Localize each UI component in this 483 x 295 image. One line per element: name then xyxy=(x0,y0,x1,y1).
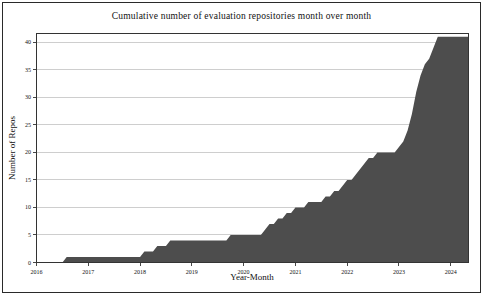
y-tick-label-30: 30 xyxy=(25,94,31,100)
y-tick-label-20: 20 xyxy=(25,149,31,155)
y-tick-label-25: 25 xyxy=(25,122,31,128)
chart-title: Cumulative number of evaluation reposito… xyxy=(0,11,483,21)
y-tick-label-0: 0 xyxy=(28,260,31,266)
x-axis-label: Year-Month xyxy=(36,272,468,282)
chart-svg: 0510152025303540201620172018201920202021… xyxy=(0,0,483,295)
y-tick-label-5: 5 xyxy=(28,232,31,238)
y-tick-label-35: 35 xyxy=(25,67,31,73)
y-tick-label-10: 10 xyxy=(25,204,31,210)
y-tick-label-40: 40 xyxy=(25,39,31,45)
y-tick-label-15: 15 xyxy=(25,177,31,183)
chart-figure: 0510152025303540201620172018201920202021… xyxy=(0,0,483,295)
cumulative-area xyxy=(37,37,469,263)
y-axis-label: Number of Repos xyxy=(7,116,17,180)
